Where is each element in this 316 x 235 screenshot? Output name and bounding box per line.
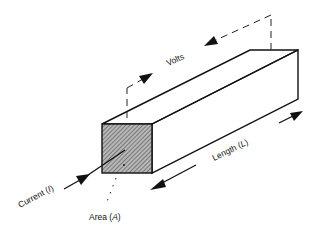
voltage-indicator: Volts: [127, 15, 271, 118]
current-arrow-tail: [64, 180, 80, 189]
voltage-arrow-right-icon: [139, 73, 153, 84]
length-arrow-left-icon: [150, 179, 166, 190]
voltage-front-diagonal: [127, 79, 143, 88]
conductor-diagram: Volts Length (L) Current (I) Area (A): [0, 0, 316, 235]
volts-label: Volts: [165, 51, 186, 68]
area-label: Area (A): [89, 212, 121, 222]
current-arrow-icon: [76, 174, 90, 185]
area-leader-line: [106, 178, 116, 204]
area-point: [123, 164, 125, 166]
bar-top-face: [102, 50, 298, 124]
area-label-text: Area (: [89, 212, 112, 222]
length-indicator: Length (L): [150, 111, 303, 190]
length-arrow-right-icon: [290, 111, 303, 121]
cross-section-area-face: [102, 124, 152, 173]
area-label-close: ): [118, 212, 121, 222]
voltage-back-diagonal: [216, 15, 271, 40]
length-label-text: Length (: [210, 140, 243, 163]
conductor-bar: [102, 50, 298, 173]
voltage-arrow-left-icon: [204, 36, 218, 46]
length-arrow-line-left: [162, 165, 196, 183]
current-label-text: Current (: [16, 185, 50, 210]
current-label: Current (I): [16, 183, 55, 210]
